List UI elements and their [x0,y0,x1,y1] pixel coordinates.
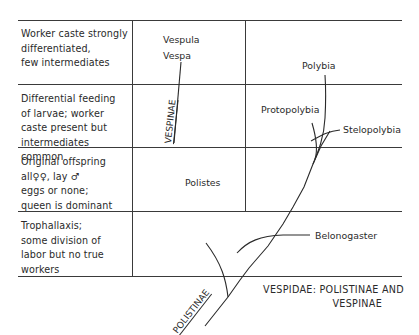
row-label-differential-feeding: Differential feeding of larvae; worker c… [21,92,131,165]
row-label-line: workers [21,263,131,278]
taxon-vespula: Vespula [163,34,200,45]
row-label-line: all♀♀, lay ♂ [21,170,131,185]
row-label-line: Worker caste strongly [21,27,131,42]
phylogeny-diagram: Worker caste strongly differentiated, fe… [0,0,419,335]
row-label-original-offspring: Original offspring all♀♀, lay ♂ eggs or … [21,155,131,213]
row-label-line: Differential feeding [21,92,131,107]
caption-line-2: VESPINAE [248,297,404,311]
taxon-protopolybia: Protopolybia [261,104,319,115]
row-label-worker-caste: Worker caste strongly differentiated, fe… [21,27,131,71]
taxon-stelopolybia: Stelopolybia [343,124,401,135]
taxon-vespa: Vespa [163,50,191,61]
taxon-polistes: Polistes [185,177,220,188]
row-label-line: few intermediates [21,56,131,71]
caption-line-1: VESPIDAE: POLISTINAE AND [248,283,404,297]
row-label-line: Original offspring [21,155,131,170]
taxon-belonogaster: Belonogaster [315,230,377,241]
row-label-line: labor but no true [21,248,131,263]
row-label-line: caste present but [21,121,131,136]
diagram-caption: VESPIDAE: POLISTINAE AND VESPINAE [248,283,404,311]
polistes-branch [206,243,228,297]
row-label-line: differentiated, [21,42,131,57]
row-label-line: some division of [21,234,131,249]
row-label-line: of larvae; worker [21,107,131,122]
row-label-line: queen is dominant [21,199,131,214]
row-label-trophallaxis: Trophallaxis; some division of labor but… [21,219,131,277]
row-label-line: eggs or none; [21,184,131,199]
taxon-polybia: Polybia [302,60,336,71]
protopolybia-branch [312,123,317,159]
row-label-line: Trophallaxis; [21,219,131,234]
